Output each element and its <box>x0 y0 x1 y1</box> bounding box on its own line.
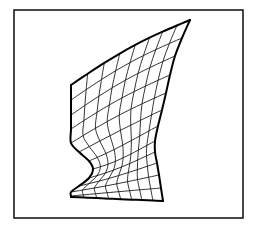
wireframe-surface-figure <box>0 0 258 230</box>
figure-root <box>0 0 258 230</box>
